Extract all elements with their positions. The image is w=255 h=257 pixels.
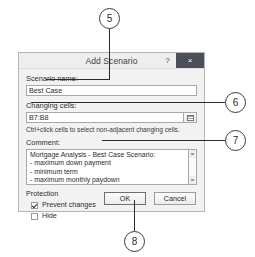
callout-7: 7 [225, 130, 246, 151]
scroll-down-icon[interactable] [189, 176, 196, 184]
callout-5-leader-vertical [109, 29, 111, 80]
dialog-title: Add Scenario [85, 56, 137, 66]
close-icon[interactable]: × [176, 53, 204, 68]
cancel-button[interactable]: Cancel [154, 192, 196, 205]
hide-checkbox[interactable] [31, 213, 38, 220]
callout-8: 8 [124, 231, 145, 252]
comment-line: - maximum down payment [30, 159, 185, 167]
dialog-titlebar: Add Scenario ? × [19, 53, 204, 69]
changing-cells-hint: Ctrl+click cells to select non-adjacent … [26, 126, 197, 134]
callout-5: 5 [99, 8, 120, 29]
comment-row: Mortgage Analysis - Best Case Scenario: … [26, 149, 197, 185]
comment-scrollbar[interactable] [188, 149, 197, 185]
callout-8-leader [134, 200, 136, 231]
scroll-up-icon[interactable] [189, 150, 196, 158]
help-icon[interactable]: ? [161, 53, 174, 68]
comment-line: Mortgage Analysis - Best Case Scenario: [30, 151, 185, 159]
ok-button[interactable]: OK [104, 192, 146, 205]
range-select-icon[interactable] [184, 112, 197, 123]
comment-line: - maximum monthly paydown [30, 176, 185, 184]
callout-6: 6 [225, 92, 246, 113]
hide-row[interactable]: Hide [26, 212, 197, 220]
callout-7-leader [102, 140, 225, 142]
hide-label: Hide [42, 212, 57, 220]
add-scenario-dialog: Add Scenario ? × Scenario name: Best Cas… [18, 52, 205, 212]
comment-line: - minimum term [30, 168, 185, 176]
dialog-button-row: OK Cancel [19, 192, 204, 205]
changing-cells-input[interactable]: B7:B8 [26, 112, 184, 123]
callout-5-leader-horizontal [46, 79, 109, 81]
comment-textarea[interactable]: Mortgage Analysis - Best Case Scenario: … [26, 149, 188, 185]
callout-6-leader [31, 102, 225, 104]
scrollbar-track[interactable] [189, 158, 196, 176]
changing-cells-row: B7:B8 [26, 112, 197, 123]
scenario-name-input[interactable]: Best Case [26, 85, 197, 96]
